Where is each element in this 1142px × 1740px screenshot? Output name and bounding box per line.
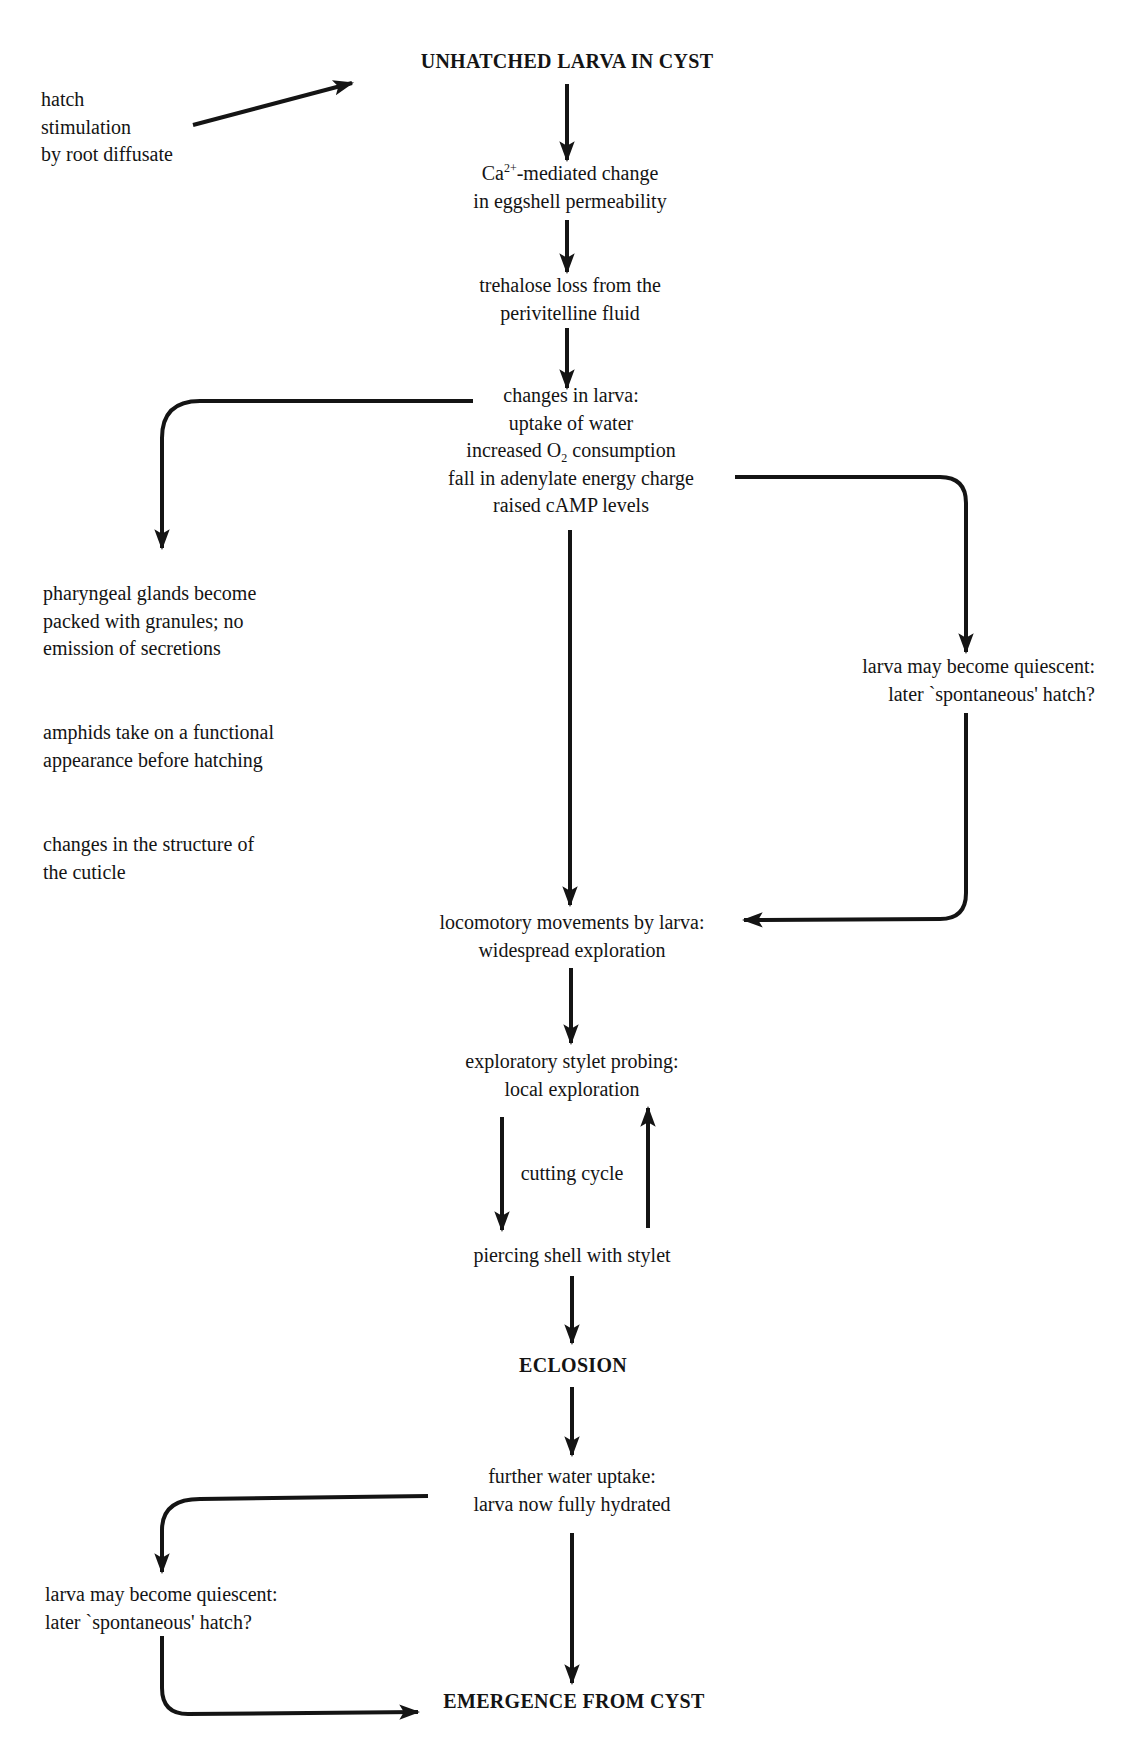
changes-line: raised cAMP levels: [448, 492, 694, 520]
calcium-line: Ca2+-mediated change: [473, 160, 666, 188]
calcium-prefix: Ca: [482, 162, 504, 184]
hatching-flow-diagram: UNHATCHED LARVA IN CYST hatch stimulatio…: [0, 0, 1142, 1740]
changes-line: uptake of water: [448, 410, 694, 438]
effect-line: emission of secretions: [43, 635, 256, 663]
node-exploratory-probing: exploratory stylet probing: local explor…: [465, 1048, 678, 1103]
node-emergence-from-cyst: EMERGENCE FROM CYST: [443, 1688, 704, 1716]
arrow-changes-to-left-effects: [162, 401, 473, 548]
node-pharyngeal-glands: pharyngeal glands become packed with gra…: [43, 580, 256, 663]
water-line: further water uptake:: [473, 1463, 670, 1491]
effect-line: appearance before hatching: [43, 747, 274, 775]
effect-line: amphids take on a functional: [43, 719, 274, 747]
quiescent-line: larva may become quiescent:: [45, 1581, 278, 1609]
calcium-line-2: in eggshell permeability: [473, 188, 666, 216]
arrow-stimulus-to-start: [193, 83, 352, 125]
changes-line: changes in larva:: [448, 382, 694, 410]
stimulus-line: stimulation: [41, 114, 173, 142]
node-piercing-shell: piercing shell with stylet: [473, 1242, 670, 1270]
stimulus-line: hatch: [41, 86, 173, 114]
locomotory-line: widespread exploration: [440, 937, 705, 965]
oxygen-prefix: increased O: [466, 439, 561, 461]
node-amphids: amphids take on a functional appearance …: [43, 719, 274, 774]
oxygen-suffix: consumption: [567, 439, 675, 461]
calcium-suffix: -mediated change: [517, 162, 659, 184]
arrow-water-to-quiescent-left: [162, 1496, 428, 1572]
node-further-water-uptake: further water uptake: larva now fully hy…: [473, 1463, 670, 1518]
node-quiescent-right: larva may become quiescent: later `spont…: [862, 653, 1095, 708]
arrow-quiescent-right-to-locomotory: [744, 713, 966, 920]
node-trehalose-loss: trehalose loss from the perivitelline fl…: [479, 272, 661, 327]
node-locomotory-movements: locomotory movements by larva: widesprea…: [440, 909, 705, 964]
changes-line: increased O2 consumption: [448, 437, 694, 465]
node-calcium-permeability: Ca2+-mediated change in eggshell permeab…: [473, 160, 666, 215]
changes-line: fall in adenylate energy charge: [448, 465, 694, 493]
exploratory-line: exploratory stylet probing:: [465, 1048, 678, 1076]
calcium-superscript: 2+: [504, 161, 517, 175]
stimulus-line: by root diffusate: [41, 141, 173, 169]
node-changes-in-larva: changes in larva: uptake of water increa…: [448, 382, 694, 520]
quiescent-line: larva may become quiescent:: [862, 653, 1095, 681]
exploratory-line: local exploration: [465, 1076, 678, 1104]
quiescent-line: later `spontaneous' hatch?: [862, 681, 1095, 709]
locomotory-line: locomotory movements by larva:: [440, 909, 705, 937]
effect-line: the cuticle: [43, 859, 254, 887]
effect-line: pharyngeal glands become: [43, 580, 256, 608]
effect-line: changes in the structure of: [43, 831, 254, 859]
node-hatch-stimulation: hatch stimulation by root diffusate: [41, 86, 173, 169]
effect-line: packed with granules; no: [43, 608, 256, 636]
node-quiescent-left: larva may become quiescent: later `spont…: [45, 1581, 278, 1636]
arrow-quiescent-left-to-end: [162, 1636, 418, 1714]
quiescent-line: later `spontaneous' hatch?: [45, 1609, 278, 1637]
label-cutting-cycle: cutting cycle: [521, 1160, 624, 1188]
trehalose-line: trehalose loss from the: [479, 272, 661, 300]
water-line: larva now fully hydrated: [473, 1491, 670, 1519]
node-eclosion: ECLOSION: [519, 1352, 627, 1380]
node-cuticle-changes: changes in the structure of the cuticle: [43, 831, 254, 886]
trehalose-line: perivitelline fluid: [479, 300, 661, 328]
node-unhatched-larva: UNHATCHED LARVA IN CYST: [421, 48, 714, 76]
arrow-changes-to-quiescent-right: [735, 477, 966, 652]
